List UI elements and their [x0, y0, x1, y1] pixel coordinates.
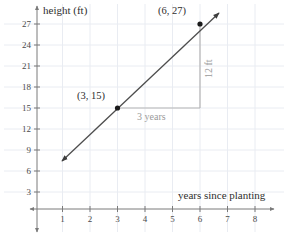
x-tick-label-1: 1	[56, 215, 70, 224]
y-tick-label-15: 15	[13, 104, 31, 113]
x-tick-label-4: 4	[138, 215, 152, 224]
y-tick-label-6: 6	[13, 167, 31, 176]
y-tick-label-12: 12	[13, 125, 31, 134]
point-label-6-27: (6, 27)	[158, 6, 186, 17]
data-point-3-15	[115, 105, 120, 110]
y-tick-label-27: 27	[13, 20, 31, 29]
y-axis-title: height (ft)	[43, 5, 87, 16]
x-tick-label-8: 8	[248, 215, 262, 224]
x-tick-label-6: 6	[193, 215, 207, 224]
x-tick-label-3: 3	[111, 215, 125, 224]
x-tick-label-7: 7	[221, 215, 235, 224]
point-label-3-15: (3, 15)	[77, 91, 105, 102]
chart-canvas: height (ft) years since planting 3 6 9 1…	[0, 0, 286, 239]
x-tick-label-2: 2	[83, 215, 97, 224]
y-tick-label-24: 24	[13, 41, 31, 50]
rise-annotation-label: 12 ft	[204, 59, 214, 78]
run-annotation-label: 3 years	[137, 112, 166, 122]
y-tick-label-3: 3	[13, 188, 31, 197]
y-tick-label-18: 18	[13, 83, 31, 92]
x-tick-label-5: 5	[166, 215, 180, 224]
y-tick-label-21: 21	[13, 62, 31, 71]
x-axis-title: years since planting	[178, 190, 265, 201]
data-point-6-27	[197, 21, 202, 26]
y-tick-label-9: 9	[13, 146, 31, 155]
